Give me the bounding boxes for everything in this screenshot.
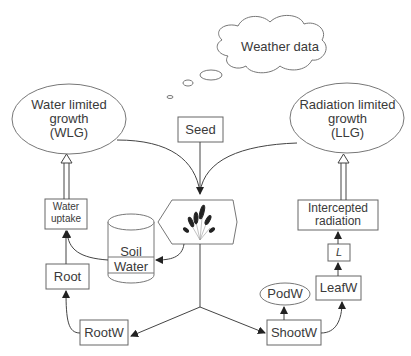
seed-label: Seed <box>178 123 223 137</box>
root-label: Root <box>46 270 89 284</box>
diagram-canvas <box>0 0 411 356</box>
water-uptake-label: Water uptake <box>45 201 87 225</box>
llg-line-1: Radiation limited <box>290 98 405 112</box>
weather-label: Weather data <box>240 40 320 54</box>
intercepted-line-2: radiation <box>298 215 378 228</box>
intercepted-radiation-label: Intercepted radiation <box>298 202 378 228</box>
weather-cloud <box>167 15 326 98</box>
shootw-label: ShootW <box>267 326 321 340</box>
wlg-line-2: growth <box>19 112 119 126</box>
llg-line-2: growth <box>290 112 405 126</box>
soil-water-line-1: Soil <box>108 244 154 259</box>
lai-label: L <box>328 246 350 259</box>
soil-water-line-2: Water <box>108 259 154 274</box>
wlg-line-3: (WLG) <box>19 126 119 140</box>
llg-line-3: (LLG) <box>290 126 405 140</box>
water-uptake-line-2: uptake <box>45 213 87 225</box>
rootw-label: RootW <box>80 326 128 340</box>
wlg-label: Water limited growth (WLG) <box>19 98 119 140</box>
water-uptake-line-1: Water <box>45 201 87 213</box>
wlg-line-1: Water limited <box>19 98 119 112</box>
soil-water-label: Soil Water <box>108 244 154 274</box>
llg-label: Radiation limited growth (LLG) <box>290 98 405 140</box>
leafw-label: LeafW <box>316 281 361 295</box>
podw-label: PodW <box>260 287 310 301</box>
